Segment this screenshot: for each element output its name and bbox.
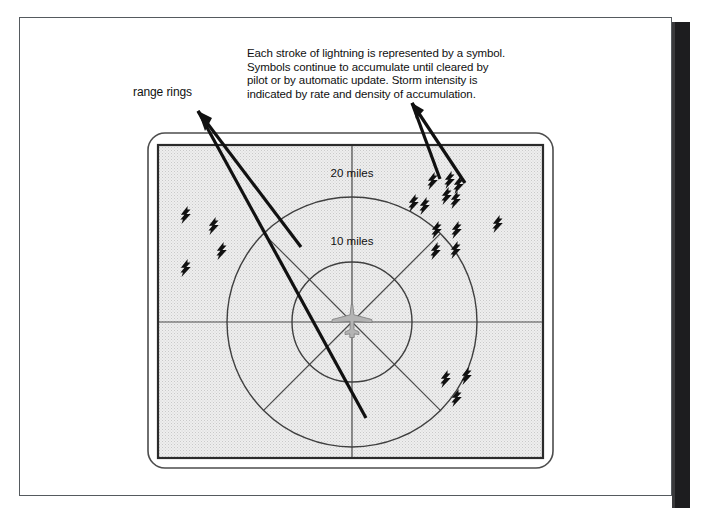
display-screen: [158, 145, 543, 458]
diagram-canvas: 20 miles 10 miles: [0, 0, 716, 508]
ring-label-inner: 10 miles: [331, 235, 374, 247]
figure-root: range rings Each stroke of lightning is …: [0, 0, 716, 508]
ring-label-outer: 20 miles: [331, 167, 374, 179]
